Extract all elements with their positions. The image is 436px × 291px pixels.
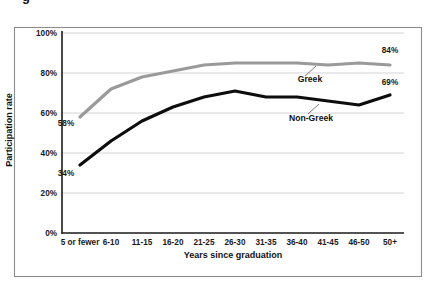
x-tick-label: 11-15 — [132, 238, 153, 247]
y-axis-tick-labels: 100%80%60%40%20%0% — [36, 29, 58, 238]
value-label: 58% — [58, 119, 75, 128]
value-label: 69% — [382, 78, 399, 87]
series-lines-group — [80, 63, 390, 165]
y-tick-label: 40% — [41, 149, 58, 158]
x-tick-label: 26-30 — [225, 238, 246, 247]
cropped-title-text: g — [22, 0, 30, 4]
series-label-greek: Greek — [298, 74, 323, 84]
y-tick-label: 20% — [41, 189, 58, 198]
y-axis-title: Participation rate — [4, 93, 14, 167]
x-tick-label: 5 or fewer — [61, 238, 100, 247]
x-tick-label: 31-35 — [256, 238, 277, 247]
y-tick-label: 80% — [41, 69, 58, 78]
x-tick-label: 46-50 — [349, 238, 370, 247]
participation-rate-chart-figure: g 100%80%60%40%20%0% 5 or fewer6-1011-15… — [0, 0, 436, 291]
y-tick-label: 100% — [36, 29, 58, 38]
x-tick-label: 36-40 — [287, 238, 308, 247]
value-label: 84% — [382, 46, 399, 55]
data-point-value-labels: 58%84%34%69% — [58, 46, 399, 178]
cropped-title-strip: g — [0, 0, 436, 12]
x-tick-label: 41-45 — [318, 238, 339, 247]
x-axis-title: Years since graduation — [184, 250, 283, 260]
y-tick-label: 60% — [41, 109, 58, 118]
x-tick-label: 6-10 — [103, 238, 120, 247]
y-tick-label: 0% — [45, 229, 58, 238]
x-tick-label: 21-25 — [194, 238, 215, 247]
value-label: 34% — [58, 169, 75, 178]
x-axis-category-labels: 5 or fewer6-1011-1516-2021-2526-3031-353… — [61, 238, 398, 247]
series-label-non-greek: Non-Greek — [289, 113, 333, 123]
x-tick-label: 50+ — [383, 238, 397, 247]
chart-canvas: 100%80%60%40%20%0% 5 or fewer6-1011-1516… — [0, 0, 436, 291]
x-tick-label: 16-20 — [163, 238, 184, 247]
y-gridlines — [62, 33, 404, 193]
series-line-non-greek — [80, 91, 390, 165]
